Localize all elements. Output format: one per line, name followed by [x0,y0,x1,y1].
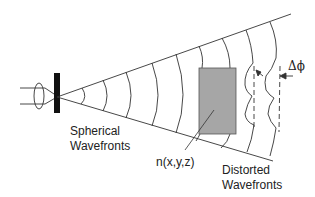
phase-shift-label: Δϕ [288,59,305,73]
lens-icon [34,83,44,109]
incoming-rays [20,88,57,104]
refractive-medium [199,68,236,134]
spherical-wavefronts-label-line2: Wavefronts [70,139,130,153]
spherical-wavefronts-label-line1: Spherical [70,124,120,138]
aperture-bar [54,73,60,113]
medium-label: n(x,y,z) [156,155,194,169]
distorted-wavefronts-label-line2: Wavefronts [222,178,282,192]
wavefront-diagram: Δϕ Spherical Wavefronts n(x,y,z) Distort… [0,0,315,197]
distorted-wavefronts [245,22,277,156]
distorted-wavefronts-label-line1: Distorted [222,163,270,177]
